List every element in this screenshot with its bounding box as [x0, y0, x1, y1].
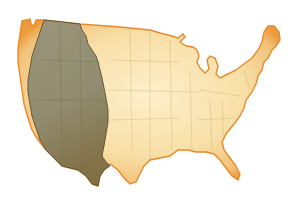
map-container: [0, 0, 300, 199]
us-map: [0, 0, 300, 199]
